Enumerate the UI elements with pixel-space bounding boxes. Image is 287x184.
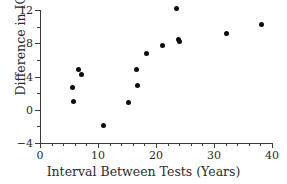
y-axis-tick-label: 12 xyxy=(19,5,33,16)
x-axis-tick xyxy=(272,143,273,148)
x-axis-minor-tick xyxy=(86,143,87,146)
x-axis-tick xyxy=(40,143,41,148)
x-axis-tick-label: 20 xyxy=(149,150,163,161)
x-axis-minor-tick xyxy=(237,143,238,146)
x-axis-title: Interval Between Tests (Years) xyxy=(0,164,287,179)
y-axis-tick-label: 8 xyxy=(26,38,33,49)
x-axis-minor-tick xyxy=(63,143,64,146)
data-point xyxy=(79,72,84,77)
y-axis-tick-label: 0 xyxy=(26,104,33,115)
x-axis-minor-tick xyxy=(168,143,169,146)
x-axis-tick xyxy=(98,143,99,148)
x-axis-minor-tick xyxy=(226,143,227,146)
x-axis-tick xyxy=(156,143,157,148)
x-axis-tick-label: 40 xyxy=(265,150,279,161)
x-axis-tick-label: 10 xyxy=(91,150,105,161)
scatter-plot-figure: Difference in IQ Scores 010203040−404812… xyxy=(0,0,287,184)
x-axis-minor-tick xyxy=(110,143,111,146)
x-axis-minor-tick xyxy=(249,143,250,146)
data-point xyxy=(177,39,182,44)
x-axis-minor-tick xyxy=(121,143,122,146)
x-axis-minor-tick xyxy=(191,143,192,146)
data-point xyxy=(144,51,149,56)
x-axis-minor-tick xyxy=(52,143,53,146)
x-axis-minor-tick xyxy=(260,143,261,146)
x-axis-minor-tick xyxy=(144,143,145,146)
x-axis-tick-label: 0 xyxy=(37,150,44,161)
x-axis-tick xyxy=(214,143,215,148)
y-axis-tick-label: −4 xyxy=(17,138,33,149)
y-axis-tick xyxy=(35,143,40,144)
data-point xyxy=(70,85,75,90)
x-axis-tick-label: 30 xyxy=(207,150,221,161)
data-point xyxy=(126,100,131,105)
x-axis-minor-tick xyxy=(202,143,203,146)
data-point xyxy=(224,31,229,36)
x-axis-minor-tick xyxy=(179,143,180,146)
x-axis-minor-tick xyxy=(133,143,134,146)
x-axis-minor-tick xyxy=(75,143,76,146)
plot-data-area xyxy=(40,10,272,143)
y-axis-tick-label: 4 xyxy=(26,71,33,82)
